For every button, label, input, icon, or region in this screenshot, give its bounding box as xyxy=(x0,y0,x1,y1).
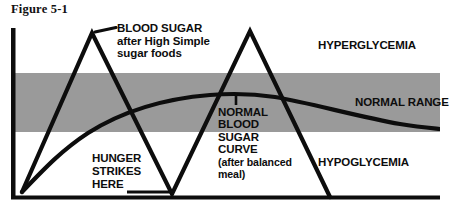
label-normal-blood-sugar-curve: NORMAL BLOOD SUGAR CURVE (after balanced… xyxy=(218,106,292,180)
label-normal-curve-line4: CURVE xyxy=(218,143,292,155)
label-hunger-strikes-here: HUNGER STRIKES HERE xyxy=(92,152,141,192)
label-normal-curve-line5: (after balanced xyxy=(218,156,292,168)
label-hunger-line2: STRIKES xyxy=(92,165,141,178)
label-blood-sugar: BLOOD SUGAR after High Simple sugar food… xyxy=(117,22,210,60)
label-normal-curve-line1: NORMAL xyxy=(218,106,292,118)
label-hyperglycemia: HYPERGLYCEMIA xyxy=(318,39,416,52)
label-normal-range: NORMAL RANGE xyxy=(355,96,449,109)
label-blood-sugar-line2: after High Simple xyxy=(117,35,210,48)
label-hunger-line3: HERE xyxy=(92,178,141,191)
label-blood-sugar-line1: BLOOD SUGAR xyxy=(117,22,210,35)
label-normal-curve-line6: meal) xyxy=(218,168,292,180)
label-hunger-line1: HUNGER xyxy=(92,152,141,165)
label-hypoglycemia: HYPOGLYCEMIA xyxy=(318,156,409,169)
label-blood-sugar-line3: sugar foods xyxy=(117,47,210,60)
label-normal-curve-line3: SUGAR xyxy=(218,131,292,143)
label-normal-curve-line2: BLOOD xyxy=(218,118,292,130)
